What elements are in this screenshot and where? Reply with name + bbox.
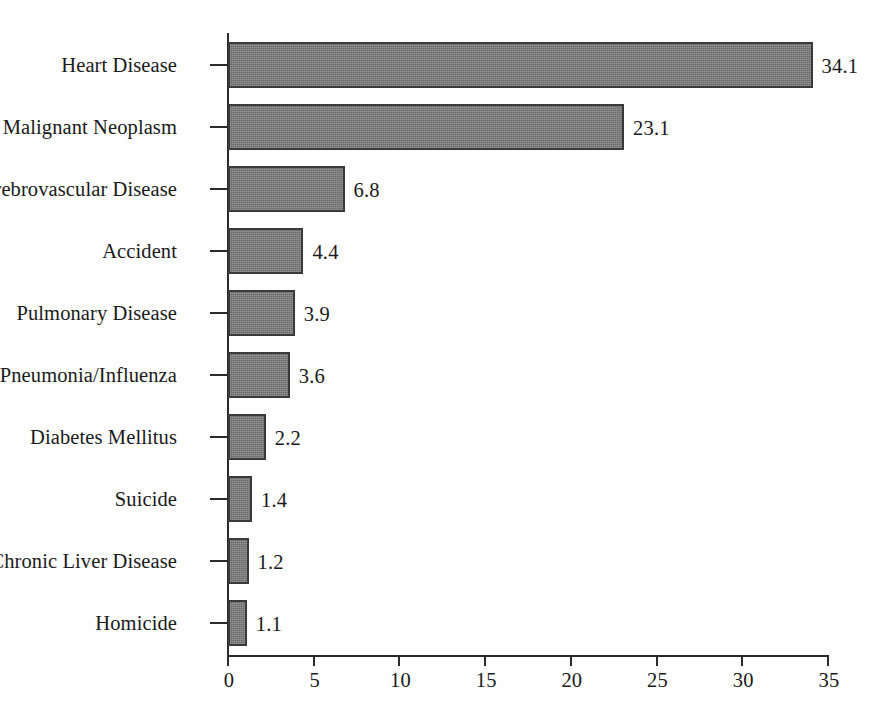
bar — [228, 104, 624, 150]
y-axis-tick — [210, 312, 228, 314]
category-label: Heart Disease — [61, 42, 177, 88]
category-label: Suicide — [115, 476, 177, 522]
x-axis-tick — [227, 655, 229, 666]
bar-value-label: 6.8 — [354, 166, 380, 212]
bar-row: Pulmonary Disease3.9 — [0, 290, 883, 336]
bar-value-label: 4.4 — [312, 228, 338, 274]
bar-row: Accident4.4 — [0, 228, 883, 274]
category-label: Cerebrovascular Disease — [0, 166, 177, 212]
bar-row: Suicide1.4 — [0, 476, 883, 522]
bar-value-label: 23.1 — [633, 104, 670, 150]
category-label: Pulmonary Disease — [16, 290, 177, 336]
y-axis-tick — [210, 436, 228, 438]
bar — [228, 414, 266, 460]
plot-area: Heart Disease34.1Malignant Neoplasm23.1C… — [0, 0, 883, 707]
bar — [228, 352, 290, 398]
x-axis-tick-label: 10 — [370, 669, 430, 692]
x-axis-line — [227, 655, 828, 657]
bar-row: Chronic Liver Disease1.2 — [0, 538, 883, 584]
bar-value-label: 34.1 — [822, 42, 859, 88]
y-axis-tick — [210, 498, 228, 500]
x-axis-tick-label: 25 — [628, 669, 688, 692]
bar — [228, 166, 345, 212]
x-axis-tick-label: 15 — [456, 669, 516, 692]
bar-value-label: 3.9 — [304, 290, 330, 336]
bar — [228, 538, 249, 584]
category-label: Homicide — [95, 600, 177, 646]
y-axis-tick — [210, 188, 228, 190]
bar — [228, 290, 295, 336]
x-axis-tick-label: 30 — [713, 669, 773, 692]
bar — [228, 228, 303, 274]
x-axis-tick — [313, 655, 315, 666]
category-label: Diabetes Mellitus — [30, 414, 177, 460]
x-axis-tick-label: 0 — [199, 669, 259, 692]
bar-row: Cerebrovascular Disease6.8 — [0, 166, 883, 212]
bar-row: Diabetes Mellitus2.2 — [0, 414, 883, 460]
x-axis-tick — [741, 655, 743, 666]
bar — [228, 42, 813, 88]
bar-row: Malignant Neoplasm23.1 — [0, 104, 883, 150]
bar-value-label: 1.1 — [256, 600, 282, 646]
y-axis-tick — [210, 126, 228, 128]
y-axis-tick — [210, 560, 228, 562]
x-axis-tick-label: 20 — [542, 669, 602, 692]
bar-value-label: 1.2 — [258, 538, 284, 584]
category-label: Chronic Liver Disease — [0, 538, 177, 584]
x-axis-tick — [656, 655, 658, 666]
bar-value-label: 1.4 — [261, 476, 287, 522]
y-axis-tick — [210, 622, 228, 624]
x-axis-tick — [570, 655, 572, 666]
bar — [228, 600, 247, 646]
x-axis-tick-label: 35 — [799, 669, 859, 692]
bar-value-label: 3.6 — [299, 352, 325, 398]
x-axis-tick — [398, 655, 400, 666]
y-axis-tick — [210, 374, 228, 376]
bar-value-label: 2.2 — [275, 414, 301, 460]
category-label: Pneumonia/Influenza — [0, 352, 177, 398]
bar-row: Heart Disease34.1 — [0, 42, 883, 88]
bar-row: Homicide1.1 — [0, 600, 883, 646]
y-axis-tick — [210, 250, 228, 252]
x-axis-tick — [484, 655, 486, 666]
x-axis-tick-label: 5 — [285, 669, 345, 692]
category-label: Malignant Neoplasm — [3, 104, 177, 150]
bar — [228, 476, 252, 522]
y-axis-tick — [210, 64, 228, 66]
x-axis-tick — [827, 655, 829, 666]
bar-chart: Heart Disease34.1Malignant Neoplasm23.1C… — [0, 0, 883, 707]
bar-row: Pneumonia/Influenza3.6 — [0, 352, 883, 398]
category-label: Accident — [102, 228, 177, 274]
